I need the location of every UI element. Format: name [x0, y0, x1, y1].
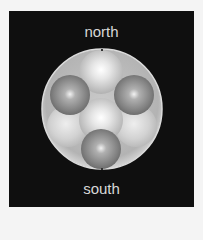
south-pole-marker [101, 168, 103, 170]
inner-sphere-left [50, 75, 90, 115]
inner-sphere-right [114, 75, 154, 115]
inner-sphere-bottom [81, 129, 121, 169]
south-label: south [0, 181, 203, 197]
north-label: north [0, 24, 203, 40]
north-pole-marker [101, 49, 103, 51]
